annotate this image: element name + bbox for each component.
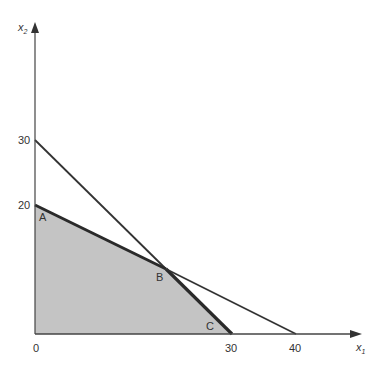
tick-x-40: 40: [289, 343, 301, 354]
point-label-a: A: [39, 212, 46, 223]
diagram-canvas: [0, 0, 380, 368]
tick-x-0: 0: [33, 343, 39, 354]
tick-y-20: 20: [18, 200, 30, 211]
x-axis-label: x1: [356, 342, 365, 353]
y-axis-arrow-icon: [31, 22, 39, 33]
point-label-b: B: [156, 272, 163, 283]
point-label-c: C: [206, 321, 214, 332]
feasible-region: [35, 205, 232, 334]
tick-x-30: 30: [225, 343, 237, 354]
x-axis-arrow-icon: [350, 330, 362, 338]
y-axis-label: x2: [18, 22, 27, 33]
tick-y-30: 30: [18, 135, 30, 146]
